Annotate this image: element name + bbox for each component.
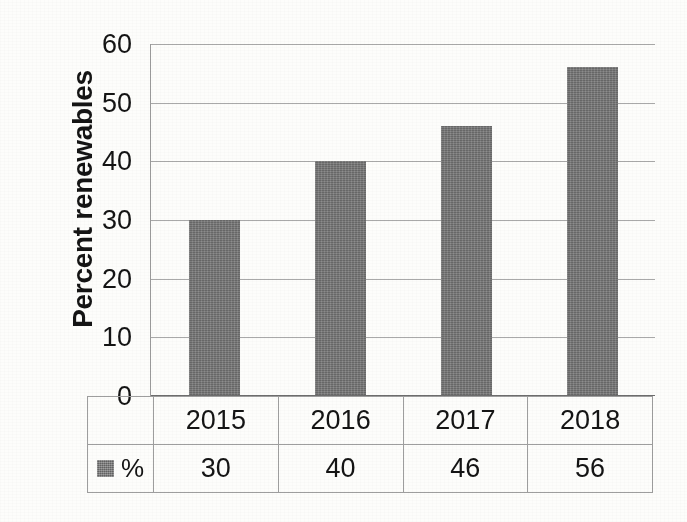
legend-entry: % xyxy=(88,453,153,484)
bar-2015[interactable] xyxy=(189,220,240,396)
bar-slot-2016 xyxy=(277,44,403,396)
legend-swatch-icon xyxy=(97,460,114,477)
legend-label: % xyxy=(121,453,144,484)
bar-series xyxy=(151,44,655,396)
value-cell-2015: 30 xyxy=(154,445,279,493)
bar-2018[interactable] xyxy=(567,67,618,396)
y-tick-10: 10 xyxy=(102,324,132,351)
bar-slot-2017 xyxy=(403,44,529,396)
bar-2016[interactable] xyxy=(315,161,366,396)
y-tick-30: 30 xyxy=(102,207,132,234)
chart-data-table: 2015 2016 2017 2018 % 30 40 46 56 xyxy=(87,396,653,493)
table-corner-cell xyxy=(88,397,154,445)
table-row-years: 2015 2016 2017 2018 xyxy=(88,397,653,445)
table-row-values: % 30 40 46 56 xyxy=(88,445,653,493)
plot-area xyxy=(150,44,655,396)
y-axis-tick-labels: 60 50 40 30 20 10 0 xyxy=(74,44,140,396)
legend-cell: % xyxy=(88,445,154,493)
value-cell-2018: 56 xyxy=(528,445,653,493)
value-cell-2017: 46 xyxy=(403,445,528,493)
bar-slot-2015 xyxy=(151,44,277,396)
year-cell-2015: 2015 xyxy=(154,397,279,445)
y-tick-20: 20 xyxy=(102,265,132,292)
bar-slot-2018 xyxy=(529,44,655,396)
y-tick-60: 60 xyxy=(102,31,132,58)
year-cell-2017: 2017 xyxy=(403,397,528,445)
year-cell-2018: 2018 xyxy=(528,397,653,445)
bar-2017[interactable] xyxy=(441,126,492,396)
year-cell-2016: 2016 xyxy=(278,397,403,445)
y-tick-40: 40 xyxy=(102,148,132,175)
chart-figure: Percent renewables 60 50 40 30 20 10 0 xyxy=(0,0,687,522)
value-cell-2016: 40 xyxy=(278,445,403,493)
y-tick-50: 50 xyxy=(102,89,132,116)
